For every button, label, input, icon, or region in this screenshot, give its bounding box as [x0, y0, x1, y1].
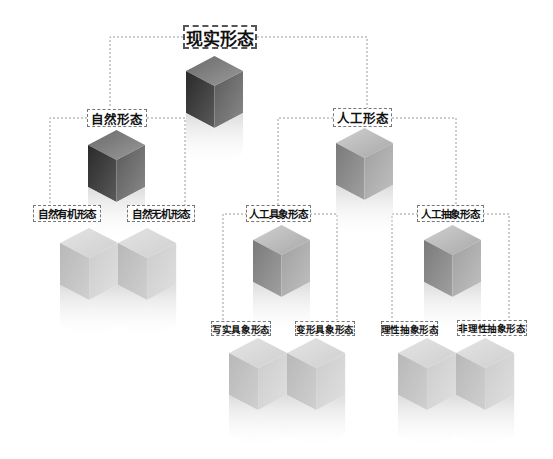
cube-natural-inorganic: [118, 228, 176, 340]
cube-natural-organic: [60, 228, 118, 340]
cube-graphics: [0, 0, 553, 459]
node-irrational-abstract: 非理性抽象形态: [457, 320, 527, 336]
node-natural-inorganic: 自然无机形态: [127, 205, 195, 222]
node-deformed-concrete: 变形具象形态: [295, 321, 355, 336]
node-artificial-concrete: 人工具象形态: [246, 205, 311, 222]
diagram-canvas: 现实形态 自然形态 人工形态 自然有机形态 自然无机形态 人工具象形态 人工抽象…: [0, 0, 553, 459]
cube-realistic-concrete: [229, 338, 287, 450]
node-natural-organic: 自然有机形态: [33, 205, 101, 222]
cube-rational-abstract: [398, 338, 456, 450]
cube-irrational-abstract: [456, 338, 514, 450]
cube-deformed-concrete: [287, 338, 345, 450]
node-realistic-concrete: 写实具象形态: [211, 321, 271, 336]
node-artificial-form: 人工形态: [333, 108, 392, 127]
node-real-form: 现实形态: [183, 25, 257, 49]
cube-natural-form: [88, 130, 145, 242]
cube-real-form: [186, 56, 243, 168]
node-artificial-abstract: 人工抽象形态: [417, 205, 484, 222]
cube-artificial-form: [336, 128, 393, 240]
node-rational-abstract: 理性抽象形态: [381, 321, 438, 336]
node-natural-form: 自然形态: [87, 109, 147, 127]
